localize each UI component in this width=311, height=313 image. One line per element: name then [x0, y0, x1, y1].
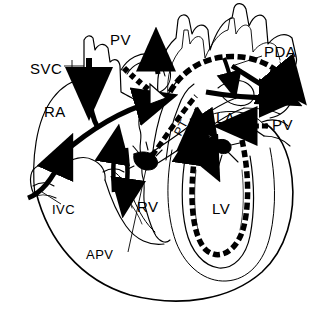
label-ra: RA	[44, 104, 66, 119]
label-pv-right: PV	[272, 117, 293, 132]
pulmonary-vein-right-lower	[264, 136, 290, 146]
label-apv: APV	[86, 248, 114, 261]
valve-remnant-a	[133, 146, 138, 152]
interventricular-septum	[138, 110, 170, 242]
lv-endocardial-texture-b	[240, 170, 243, 230]
svc-to-ra-flow	[89, 92, 98, 128]
pda-leader-line	[232, 56, 262, 66]
mitral-chord-e	[204, 134, 216, 140]
heart-outline-group	[30, 4, 297, 301]
mitral-chord-b	[218, 155, 222, 168]
left-pulmonary-artery-lower	[244, 108, 280, 114]
lv-outflow-arrow	[192, 140, 248, 255]
label-ivc: IVC	[52, 203, 75, 216]
pda-descending-arrow	[232, 66, 278, 94]
label-lv: LV	[212, 201, 230, 216]
branch-pa-flow-arrow	[206, 92, 276, 98]
right-heart-border	[62, 158, 105, 180]
label-la: LA	[216, 110, 235, 125]
label-svc: SVC	[30, 61, 62, 76]
mitral-valve-annulus	[214, 139, 231, 153]
label-rv: RV	[137, 199, 159, 214]
ductus-flow-arrow	[224, 58, 232, 84]
mitral-chord-c	[228, 152, 238, 162]
label-pda: PDA	[264, 44, 296, 59]
rv-regurgitation-arrow	[113, 148, 115, 192]
heart-diagram: SVC RA IVC APV RV PV PT LA PV LV PDA	[0, 0, 311, 313]
rv-outflow-arrow	[126, 148, 128, 194]
ascending-aorta-arrow	[156, 54, 158, 74]
valve-remnant-b	[146, 142, 148, 150]
label-pv-top: PV	[110, 32, 131, 47]
